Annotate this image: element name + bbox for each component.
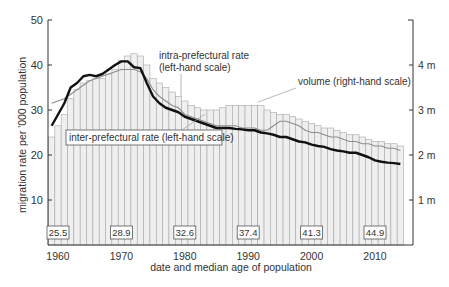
left-tick-label: 10 [31,194,43,206]
right-tick-label: 3 m [418,104,436,116]
volume-bar [106,74,112,245]
volume-bar [163,88,169,246]
volume-bar [245,106,251,246]
volume-bar [397,146,403,245]
volume-bar [68,99,74,245]
volume-bar [137,56,143,245]
volume-bar [118,61,124,246]
volume-bar [74,90,80,245]
x-axis-label: date and median age of population [150,261,312,273]
inter-annotation-text: inter-prefectural rate (left-hand scale) [69,132,234,143]
right-y-axis: 1 m2 m3 m4 m [408,20,436,245]
volume-bar [150,79,156,246]
volume-bar [239,106,245,246]
volume-bar [188,106,194,246]
volume-bar [283,115,289,246]
median-age-value: 25.5 [49,227,68,238]
volume-bar [194,108,200,245]
left-tick-label: 50 [31,14,43,26]
median-age-value: 32.6 [176,227,195,238]
median-age-value: 37.4 [239,227,258,238]
volume-bar [353,135,359,245]
volume-bar [144,65,150,245]
volume-bar [182,101,188,245]
volume-bar [334,130,340,245]
volume-bar [131,54,137,245]
x-tick-label: 1960 [46,250,70,262]
volume-annotation: volume (right-hand scale) [258,76,411,102]
volume-bar [270,112,276,245]
intra-annotation: intra-prefectural rate (left-hand scale) [159,50,249,96]
volume-bar [175,97,181,246]
median-age-value: 44.9 [366,227,385,238]
intra-annotation-line1: intra-prefectural rate [159,50,249,61]
volume-bar [258,106,264,246]
volume-bar [327,128,333,245]
volume-bar [391,144,397,245]
volume-leader-line [258,88,296,102]
right-tick-label: 1 m [418,194,436,206]
left-tick-label: 20 [31,149,43,161]
left-tick-label: 40 [31,59,43,71]
migration-chart: 1020304050 1 m2 m3 m4 m 1960197019801990… [0,0,449,287]
x-axis: 196019701980199020002010 [46,245,413,262]
volume-bar [169,92,175,245]
volume-bar [80,83,86,245]
x-tick-label: 2010 [363,250,387,262]
intra-annotation-line2: (left-hand scale) [159,62,231,73]
median-age-value: 41.3 [302,227,321,238]
volume-bar [99,79,105,246]
left-tick-label: 30 [31,104,43,116]
volume-bar [289,117,295,245]
volume-bar [277,115,283,246]
volume-bar [226,106,232,246]
volume-bar [251,106,257,246]
volume-bar [87,81,93,245]
right-tick-label: 2 m [418,149,436,161]
volume-bar [112,70,118,246]
volume-bar [125,56,131,245]
volume-annotation-text: volume (right-hand scale) [298,76,411,87]
x-tick-label: 1970 [110,250,134,262]
volume-bar [93,79,99,246]
volume-bar [156,83,162,245]
right-tick-label: 4 m [418,59,436,71]
median-age-value: 28.9 [112,227,131,238]
volume-bar [340,133,346,246]
y-axis-label: migration rate per '000 population [16,57,28,213]
